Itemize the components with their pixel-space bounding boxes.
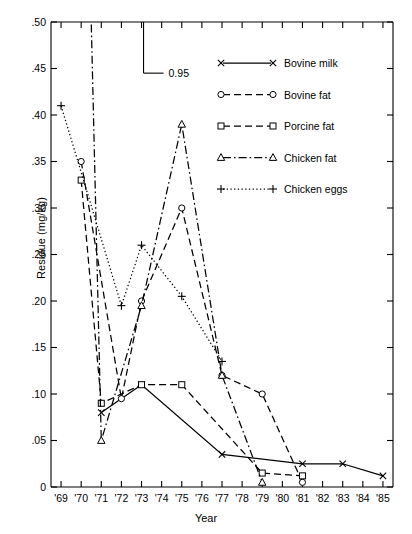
x-tick-label: '80: [276, 492, 290, 504]
offscale-annotation: 0.95: [144, 22, 190, 79]
point-marker: [78, 177, 84, 183]
point-marker: [179, 382, 185, 388]
chart-canvas: 0.05.10.15.20.25.30.35.40.45.50'69'70'71…: [0, 0, 412, 534]
x-tick-label: '84: [356, 492, 370, 504]
legend-entry: Chicken eggs: [217, 183, 348, 195]
y-tick-label: .40: [31, 109, 46, 121]
x-tick-label: '70: [74, 492, 88, 504]
series-bovine-fat: [78, 158, 305, 485]
point-marker: [259, 478, 266, 485]
legend-entry: Bovine fat: [218, 89, 331, 101]
x-tick-label: '79: [255, 492, 269, 504]
chart-figure: Residue (mg/kg) Year 0.05.10.15.20.25.30…: [0, 0, 412, 534]
x-tick-label: '81: [296, 492, 310, 504]
x-tick-label: '74: [155, 492, 169, 504]
x-tick-label: '78: [235, 492, 249, 504]
y-tick-label: .15: [31, 341, 46, 353]
point-marker: [178, 120, 185, 127]
point-marker: [98, 437, 105, 444]
point-marker: [179, 205, 185, 211]
series-porcine-fat: [78, 177, 305, 479]
x-tick-label: '77: [215, 492, 229, 504]
point-marker: [78, 158, 84, 164]
x-tick-label: '71: [94, 492, 108, 504]
y-tick-label: .05: [31, 434, 46, 446]
legend-label: Bovine fat: [284, 89, 331, 101]
legend-entry: Porcine fat: [218, 120, 334, 132]
x-tick-label: '83: [336, 492, 350, 504]
x-tick-label: '85: [376, 492, 390, 504]
point-marker: [270, 91, 276, 97]
series-layer: [57, 0, 386, 485]
x-tick-label: '73: [135, 492, 149, 504]
x-tick-label: '69: [54, 492, 68, 504]
point-marker: [218, 123, 224, 129]
series-line: [81, 180, 302, 476]
point-marker: [270, 123, 276, 129]
y-tick-label: 0: [40, 481, 46, 493]
point-marker: [118, 396, 124, 402]
y-tick-label: .45: [31, 62, 46, 74]
x-tick-label: '82: [316, 492, 330, 504]
y-tick-label: .10: [31, 388, 46, 400]
point-marker: [299, 473, 305, 479]
series-line: [81, 162, 302, 483]
annotation-label: 0.95: [169, 67, 190, 79]
point-marker: [259, 391, 265, 397]
legend-label: Chicken eggs: [284, 183, 348, 195]
legend-label: Porcine fat: [284, 120, 334, 132]
series-bovine-milk: [98, 382, 386, 480]
legend-label: Chicken fat: [284, 152, 337, 164]
series-line: [61, 106, 222, 362]
y-axis-label: Residue (mg/kg): [35, 178, 47, 298]
x-tick-label: '76: [195, 492, 209, 504]
point-marker: [218, 91, 224, 97]
x-tick-label: '75: [175, 492, 189, 504]
point-marker: [299, 479, 305, 485]
legend-entry: Chicken fat: [217, 152, 336, 164]
point-marker: [139, 382, 145, 388]
x-axis-label: Year: [0, 512, 412, 524]
series-chicken-eggs: [57, 102, 226, 366]
x-tick-label: '72: [115, 492, 129, 504]
y-tick-label: .35: [31, 155, 46, 167]
y-tick-label: .50: [31, 16, 46, 28]
legend-label: Bovine milk: [284, 57, 338, 69]
legend-entry: Bovine milk: [218, 57, 339, 69]
point-marker: [98, 400, 104, 406]
